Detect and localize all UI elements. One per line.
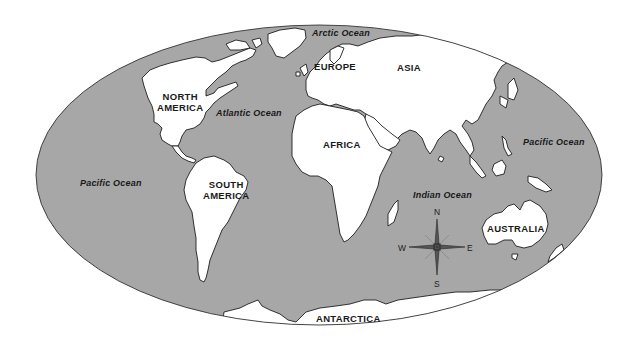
compass-north-label: N — [434, 208, 440, 217]
label-africa: AFRICA — [323, 140, 361, 151]
world-map: NORTHAMERICA SOUTHAMERICA EUROPE ASIA AF… — [0, 0, 635, 349]
compass-west-label: W — [398, 244, 406, 253]
label-antarctica: ANTARCTICA — [316, 314, 381, 325]
label-pacific-ocean-west: Pacific Ocean — [80, 179, 142, 188]
label-indian-ocean: Indian Ocean — [413, 191, 472, 200]
label-north-america: NORTHAMERICA — [157, 92, 203, 113]
label-atlantic-ocean: Atlantic Ocean — [216, 109, 282, 118]
map-graphic — [0, 0, 635, 349]
compass-south-label: S — [434, 280, 440, 289]
label-asia: ASIA — [397, 63, 421, 74]
label-arctic-ocean: Arctic Ocean — [312, 29, 370, 38]
compass-east-label: E — [467, 244, 473, 253]
label-australia: AUSTRALIA — [487, 224, 545, 235]
label-europe: EUROPE — [314, 62, 356, 73]
label-pacific-ocean-east: Pacific Ocean — [523, 138, 585, 147]
label-south-america: SOUTHAMERICA — [203, 180, 249, 201]
